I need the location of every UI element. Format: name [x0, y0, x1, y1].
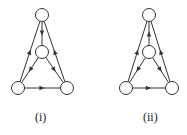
arrowhead-icon	[146, 86, 151, 90]
node-mid	[36, 46, 49, 59]
node-br	[166, 82, 179, 95]
arrowhead-icon	[159, 50, 163, 56]
arrowhead-icon	[53, 50, 57, 56]
directed-graphs	[0, 0, 187, 135]
graph-label-i: (i)	[35, 110, 46, 125]
arrowhead-icon	[51, 66, 56, 71]
graph-2	[120, 9, 179, 95]
node-bl	[120, 82, 133, 95]
node-bl	[12, 82, 25, 95]
arrowhead-icon	[134, 50, 138, 56]
graph-label-ii: (ii)	[143, 110, 158, 125]
node-top	[36, 9, 49, 22]
arrowhead-icon	[136, 66, 141, 72]
arrowhead-icon	[147, 32, 151, 37]
arrowhead-icon	[39, 86, 44, 90]
arrowhead-icon	[27, 50, 31, 56]
node-top	[143, 9, 156, 22]
node-mid	[143, 46, 156, 59]
node-br	[61, 82, 74, 95]
arrowhead-icon	[40, 30, 44, 35]
arrowhead-icon	[29, 66, 34, 72]
graph-1	[12, 9, 74, 95]
arrowhead-icon	[157, 66, 162, 72]
